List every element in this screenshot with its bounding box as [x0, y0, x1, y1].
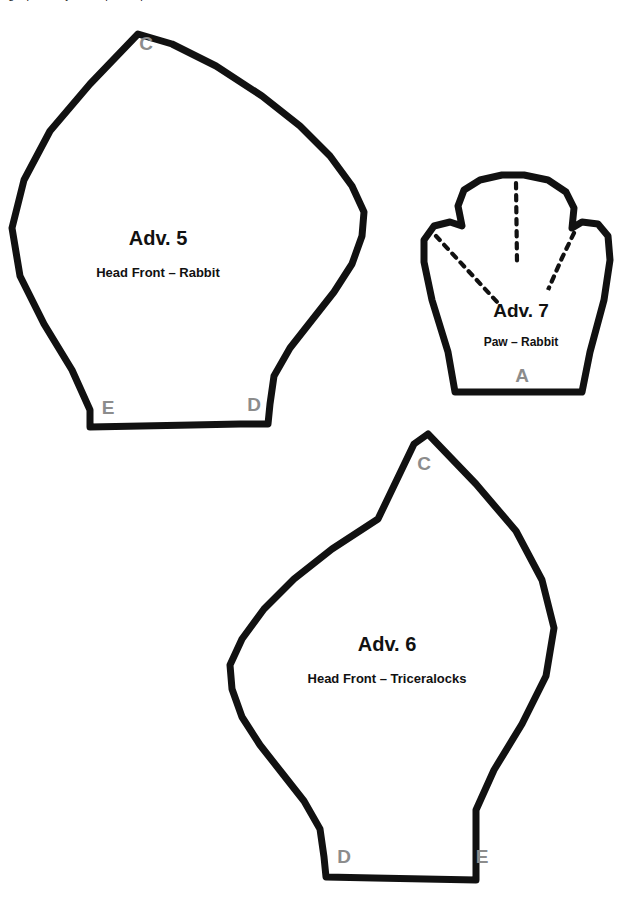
piece-subtitle-adv-5: Head Front – Rabbit — [96, 265, 220, 280]
notch-label-adv-7-a: A — [515, 365, 529, 386]
piece-title-adv-5: Adv. 5 — [129, 227, 188, 249]
pattern-piece-adv-5[interactable]: Adv. 5 Head Front – Rabbit C E D — [12, 33, 364, 427]
piece-subtitle-adv-6: Head Front – Triceralocks — [308, 671, 467, 686]
pattern-canvas: Adv. 5 Head Front – Rabbit C E D Adv. 6 … — [0, 0, 630, 898]
piece-title-adv-7: Adv. 7 — [493, 300, 549, 321]
piece-subtitle-adv-7: Paw – Rabbit — [484, 335, 559, 349]
notch-label-adv-6-c: C — [417, 453, 431, 474]
notch-label-adv-6-d: D — [337, 846, 351, 867]
pattern-sheet: ng it precisely to the part of parts Adv… — [0, 0, 630, 898]
pattern-piece-adv-6[interactable]: Adv. 6 Head Front – Triceralocks C D E — [230, 434, 554, 880]
toe-seam-center-dashed-line — [516, 183, 517, 262]
notch-label-adv-6-e: E — [476, 846, 489, 867]
piece-title-adv-6: Adv. 6 — [358, 633, 417, 655]
pattern-piece-adv-7[interactable]: Adv. 7 Paw – Rabbit A — [424, 175, 610, 392]
piece-outline-adv-6 — [230, 434, 554, 880]
notch-label-adv-5-c: C — [139, 33, 153, 54]
piece-outline-adv-5 — [12, 34, 364, 427]
notch-label-adv-5-e: E — [102, 397, 115, 418]
notch-label-adv-5-d: D — [247, 394, 261, 415]
